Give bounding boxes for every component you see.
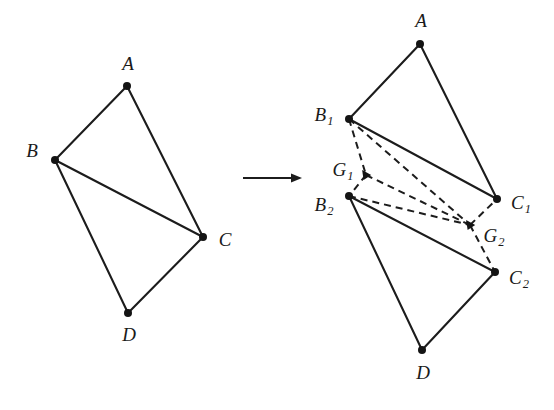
centroid-label-g2-subscript: 2 bbox=[498, 235, 504, 249]
left-vertex-dot-c bbox=[199, 233, 207, 241]
left-vertex-dot-a bbox=[123, 82, 131, 90]
right-vertex-label-b2-subscript: 2 bbox=[327, 204, 333, 218]
left-vertex-label-b: B bbox=[26, 140, 38, 161]
geometry-figure-canvas: ABCD AB1C1B2C2DG1G2 bbox=[0, 0, 554, 410]
left-vertex-dot-b bbox=[51, 156, 59, 164]
left-vertex-label-d: D bbox=[121, 324, 136, 345]
left-vertex-label-a: A bbox=[120, 53, 134, 74]
centroid-label-g1-subscript: 1 bbox=[347, 169, 353, 183]
right-vertex-dot-b2 bbox=[345, 192, 353, 200]
right-vertex-dot-c1 bbox=[493, 195, 501, 203]
right-vertex-label-c2-subscript: 2 bbox=[523, 277, 529, 291]
right-vertex-dot-d bbox=[418, 346, 426, 354]
right-vertex-label-c1-subscript: 1 bbox=[525, 202, 531, 216]
right-vertex-label-d: D bbox=[415, 362, 430, 383]
left-vertex-dot-d bbox=[124, 309, 132, 317]
left-vertex-label-c: C bbox=[219, 229, 232, 250]
right-vertex-dot-b1 bbox=[345, 115, 353, 123]
right-vertex-dot-c2 bbox=[491, 268, 499, 276]
right-vertex-label-a: A bbox=[413, 10, 427, 31]
right-vertex-label-b1-subscript: 1 bbox=[327, 114, 333, 128]
canvas-background bbox=[0, 0, 554, 410]
right-vertex-dot-a bbox=[416, 40, 424, 48]
